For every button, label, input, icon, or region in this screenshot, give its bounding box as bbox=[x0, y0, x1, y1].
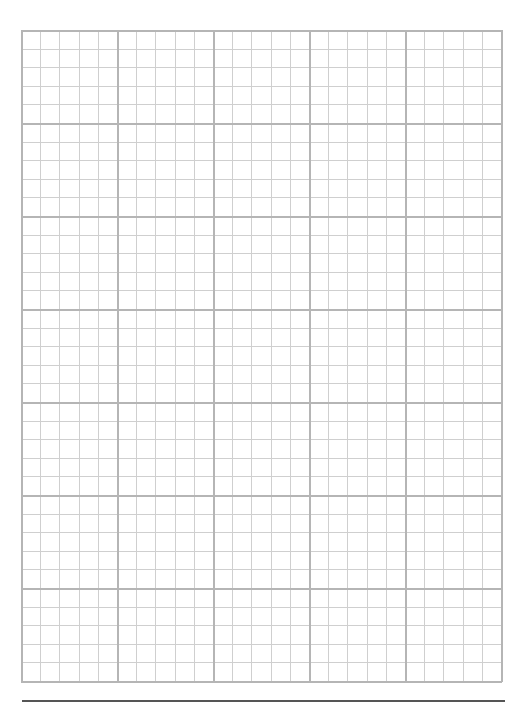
grid bbox=[21, 30, 503, 683]
bottom-rule-line bbox=[22, 700, 505, 702]
graph-paper-sheet bbox=[0, 0, 522, 703]
